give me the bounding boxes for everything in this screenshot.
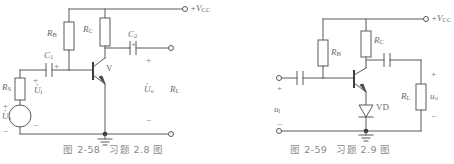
label-rl: RL (170, 85, 179, 95)
transistor-collector-lead (93, 58, 105, 67)
label-rs: RS (2, 83, 11, 93)
resistor-rb-body (318, 40, 328, 66)
polarity-plus-uo: + (431, 70, 436, 79)
label-uo: Uo (144, 85, 154, 95)
polarity-minus-source: − (3, 127, 8, 136)
polarity-plus-ui: + (277, 84, 282, 93)
terminal-input-top (277, 76, 282, 81)
caption-number: 图 2-58 (63, 144, 100, 155)
polarity-minus-ui: − (277, 120, 282, 129)
diode-vd-triangle (359, 105, 373, 117)
figure-2-58: +VCC RB RC RS C1 C2 V Us Ui Uo RL + + + … (0, 0, 227, 164)
resistor-rl-body (416, 84, 426, 110)
polarity-minus-ui: − (33, 121, 38, 130)
label-rc: RC (374, 36, 384, 46)
resistor-rc-body (361, 31, 371, 57)
label-ui: ui (274, 105, 280, 115)
polarity-plus-source: + (3, 102, 8, 111)
label-rb: RB (47, 29, 57, 39)
label-ui: Ui (34, 86, 42, 96)
terminal-vcc (183, 7, 188, 12)
label-rb: RB (331, 48, 341, 58)
caption-title: 习题 2.9 图 (336, 144, 390, 155)
caption-number: 图 2-59 (290, 144, 327, 155)
terminal-input-bottom (277, 129, 282, 134)
label-rc: RC (83, 25, 93, 35)
transistor-collector-lead (354, 68, 366, 75)
polarity-plus-c1: + (54, 62, 59, 71)
polarity-plus-c2: + (131, 40, 136, 49)
terminal-output-bottom (169, 132, 174, 137)
resistor-rb-body (64, 22, 74, 50)
caption-title: 习题 2.8 图 (109, 144, 163, 155)
label-c1: C1 (44, 51, 53, 61)
caption-2-59: 图 2-59习题 2.9 图 (227, 142, 454, 156)
polarity-plus-ui: + (33, 76, 38, 85)
polarity-minus-uo: − (431, 112, 436, 121)
resistor-rs-body (15, 78, 25, 100)
label-uo: uo (430, 92, 438, 102)
label-transistor-v: V (106, 64, 113, 73)
figure-2-59: +VCC RB RC RL VD ui uo + − + − 图 2-59习题 … (227, 0, 454, 164)
voltage-source-circle (9, 105, 31, 127)
caption-2-58: 图 2-58习题 2.8 图 (0, 142, 227, 156)
label-source-us: Us (2, 112, 11, 122)
circuit-schematic-2-59 (227, 0, 454, 164)
supply-label-vcc: +VCC (431, 14, 451, 24)
terminal-output-top (169, 46, 174, 51)
resistor-rc-body (100, 18, 110, 46)
label-diode-vd: VD (376, 103, 389, 112)
terminal-vcc (424, 17, 429, 22)
polarity-minus-uo: − (146, 116, 151, 125)
figure-page: +VCC RB RC RS C1 C2 V Us Ui Uo RL + + + … (0, 0, 454, 164)
label-rl: RL (401, 92, 410, 102)
supply-label-vcc: +VCC (190, 4, 210, 14)
polarity-plus-uo: + (146, 56, 151, 65)
